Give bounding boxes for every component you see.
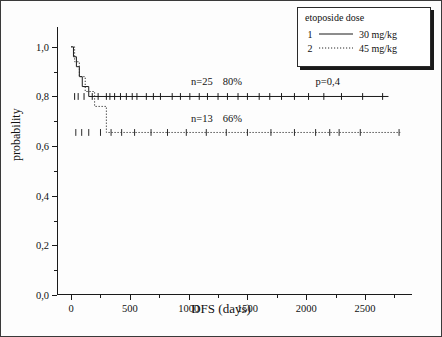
y-tick-minor xyxy=(54,171,57,172)
plot-area: 0,00,20,40,60,81,0 05001000150020002500 … xyxy=(57,27,412,295)
x-tick-minor xyxy=(218,295,219,298)
x-tick-minor xyxy=(100,295,101,298)
group1-stats-n: n=25 xyxy=(191,76,213,87)
group1-stats-pct: 80% xyxy=(223,76,242,87)
y-tick-label: 0,8 xyxy=(36,91,49,102)
group2-stats-n: n=13 xyxy=(191,113,213,124)
x-tick-minor xyxy=(394,295,395,298)
chart-figure: 0,00,20,40,60,81,0 05001000150020002500 … xyxy=(0,0,442,337)
x-tick-minor xyxy=(159,295,160,298)
y-tick-label: 0,4 xyxy=(36,190,49,201)
y-tick-minor xyxy=(54,72,57,73)
legend-title: etoposide dose xyxy=(305,12,424,23)
y-tick xyxy=(52,47,57,48)
x-tick xyxy=(71,295,72,300)
y-tick xyxy=(52,295,57,296)
survival-curves xyxy=(57,27,412,295)
legend-box: etoposide dose 1 30 mg/kg 2 45 mg/kg xyxy=(297,7,431,67)
y-axis-title: probability xyxy=(9,108,24,161)
x-tick xyxy=(247,295,248,300)
legend-item-1[interactable]: 1 30 mg/kg xyxy=(304,27,424,41)
legend-label-1: 30 mg/kg xyxy=(359,29,397,40)
legend-line-sample-solid xyxy=(319,30,353,38)
legend-key-1: 1 xyxy=(304,29,316,40)
y-tick-label: 1,0 xyxy=(36,41,49,52)
y-tick xyxy=(52,245,57,246)
x-tick xyxy=(306,295,307,300)
y-tick-minor xyxy=(54,121,57,122)
legend-key-2: 2 xyxy=(304,43,316,54)
legend-line-sample-dotted xyxy=(319,44,353,52)
legend-label-2: 45 mg/kg xyxy=(359,43,397,54)
y-tick-label: 0,0 xyxy=(36,290,49,301)
x-axis-title: DFS (days) xyxy=(1,301,441,317)
x-tick xyxy=(189,295,190,300)
y-tick-minor xyxy=(54,270,57,271)
y-tick xyxy=(52,96,57,97)
x-tick xyxy=(130,295,131,300)
pvalue: p=0,4 xyxy=(316,76,340,87)
group2-stats-pct: 66% xyxy=(223,113,242,124)
y-tick-label: 0,6 xyxy=(36,141,49,152)
y-tick xyxy=(52,196,57,197)
y-tick-label: 0,2 xyxy=(36,240,49,251)
x-tick-minor xyxy=(277,295,278,298)
y-tick-minor xyxy=(54,221,57,222)
y-tick xyxy=(52,146,57,147)
x-tick xyxy=(365,295,366,300)
x-tick-minor xyxy=(336,295,337,298)
legend-item-2[interactable]: 2 45 mg/kg xyxy=(304,41,424,55)
